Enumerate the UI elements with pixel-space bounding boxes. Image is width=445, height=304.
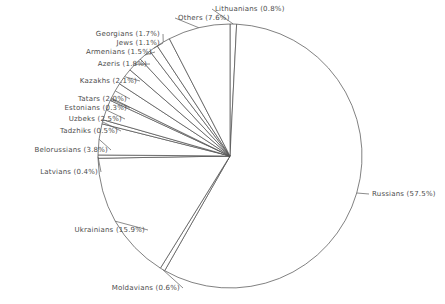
pie-label-tadzhiks: Tadzhiks (0.5%)	[0, 127, 118, 135]
pie-label-others: Others (7.6%)	[178, 14, 230, 22]
pie-label-azeris: Azeris (1.8%)	[0, 60, 147, 68]
pie-label-kazakhs: Kazakhs (2.1%)	[0, 77, 137, 85]
pie-label-tatars: Tatars (2.0%)	[0, 95, 127, 103]
pie-label-lithuanians: Lithuanians (0.8%)	[215, 5, 285, 13]
pie-label-armenians: Armenians (1.5%)	[0, 48, 152, 56]
pie-label-jews: Jews (1.1%)	[0, 39, 160, 47]
pie-label-moldavians: Moldavians (0.6%)	[0, 284, 180, 292]
pie-label-georgians: Georgians (1.7%)	[0, 30, 160, 38]
pie-label-russians: Russians (57.5%)	[372, 190, 436, 198]
pie-chart-page: Lithuanians (0.8%)Others (7.6%)Georgians…	[0, 0, 445, 304]
pie-label-uzbeks: Uzbeks (2.5%)	[0, 115, 122, 123]
pie-label-latvians: Latvians (0.4%)	[0, 168, 98, 176]
pie-label-belorussians: Belorussians (3.8%)	[0, 146, 108, 154]
leader-line-russians	[357, 193, 369, 194]
pie-label-ukrainians: Ukrainians (15.9%)	[0, 226, 145, 234]
pie-label-estonians: Estonians (0.3%)	[0, 104, 127, 112]
